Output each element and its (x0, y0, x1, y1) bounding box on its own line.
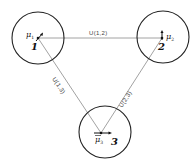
node-3-circle (79, 106, 131, 158)
node-2-center-dot (161, 37, 164, 40)
node-3-number: 3 (111, 136, 118, 147)
node-1-mu-label: μ1 (26, 30, 34, 40)
node-2: μ2 2 (137, 11, 189, 63)
edge-2-3 (101, 38, 162, 133)
node-2-mu-label: μ2 (166, 32, 174, 42)
edge-label-2-3: U(2,3) (118, 90, 133, 109)
edge-1-3 (38, 38, 101, 133)
node-3: μ3 3 (79, 106, 131, 158)
node-2-number: 2 (157, 41, 165, 52)
node-1-number: 1 (31, 41, 38, 52)
edge-label-1-3: U(1,3) (51, 76, 66, 95)
node-3-center-dot (100, 132, 103, 135)
edge-label-1-2: U(1,2) (89, 30, 107, 36)
node-3-mu-label: μ3 (95, 135, 103, 145)
node-1-center-dot (37, 37, 40, 40)
node-2-circle (137, 11, 189, 63)
three-body-diagram: U(1,2) U(1,3) U(2,3) μ1 1 μ2 2 μ3 3 (0, 0, 196, 160)
